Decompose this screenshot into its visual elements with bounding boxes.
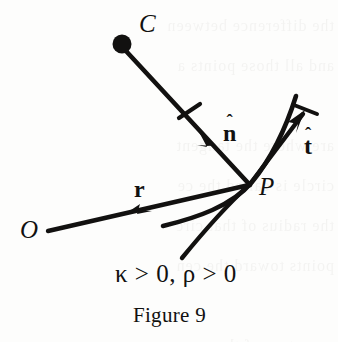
unit-length-bar [294, 105, 317, 114]
center-of-curvature-dot [113, 35, 132, 54]
unit-tangent-glyph: ˆt [304, 133, 312, 160]
unit-normal-glyph: ˆn [223, 120, 236, 147]
label-origin: O [20, 216, 38, 244]
hat-accent-normal: ˆ [227, 110, 233, 132]
label-unit-tangent: ˆt [304, 133, 312, 160]
curvature-diagram-drawing [0, 0, 338, 342]
label-point-p: P [259, 173, 274, 201]
curvature-condition-text: κ > 0, ρ > 0 [115, 260, 237, 288]
hat-accent-tangent: ˆ [305, 123, 311, 145]
label-unit-normal: ˆn [223, 120, 236, 147]
figure-panel: the difference between and all those poi… [0, 0, 338, 342]
figure-caption: Figure 9 [133, 303, 206, 328]
label-center-of-curvature: C [139, 10, 156, 38]
label-position-vector: r [134, 176, 145, 203]
